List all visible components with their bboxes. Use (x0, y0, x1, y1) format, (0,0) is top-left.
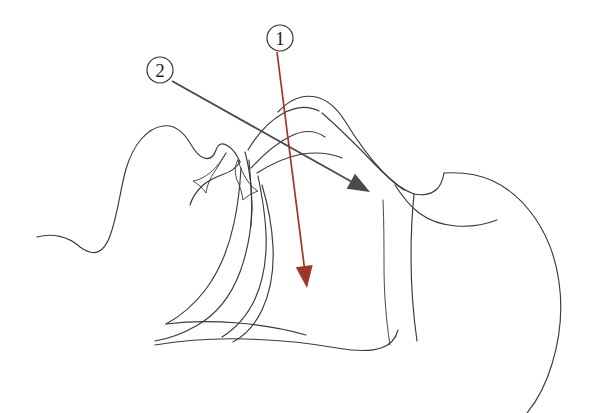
oropharynx-posterior-wall (222, 176, 266, 337)
torso-front-line (411, 194, 417, 341)
chest-upper-outline (395, 185, 497, 226)
marker-1-label: 1 (275, 28, 285, 49)
callout-1-arrowhead (296, 265, 313, 288)
sagittal-airway-diagram: 12 (0, 0, 605, 413)
shoulder-outline (444, 173, 561, 413)
anatomy-linework (37, 96, 561, 413)
neck-anterior-contour (414, 173, 444, 195)
epiglottis-line (233, 185, 273, 342)
marker-2-label: 2 (155, 60, 165, 81)
anatomical-figure: 12 (0, 0, 605, 413)
upper-incisor (193, 153, 226, 193)
face-profile-forehead-nose (37, 126, 240, 253)
posterior-neck-line (155, 330, 398, 351)
larynx-shadow (383, 200, 390, 345)
jaw-chin-lower-line (322, 113, 404, 190)
callout-arrows (172, 52, 370, 288)
numbered-markers: 12 (147, 25, 293, 83)
marker-2: 2 (147, 57, 173, 83)
callout-2-arrowhead (347, 174, 370, 192)
tongue-dorsum (155, 160, 252, 341)
callout-2-shaft (172, 81, 353, 183)
marker-1: 1 (267, 25, 293, 51)
lower-jaw-outer (166, 322, 306, 335)
tongue-body-lower (166, 168, 241, 324)
